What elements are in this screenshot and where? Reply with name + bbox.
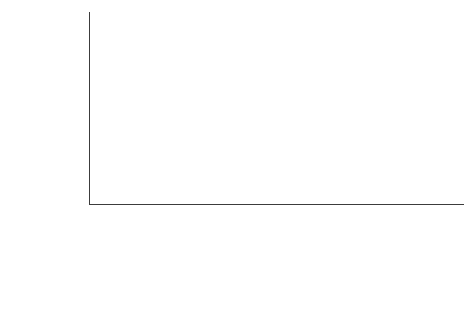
x-axis-line [89,204,464,205]
figure-caption [3,319,14,334]
y-axis-line [89,12,90,205]
figure-9-3-chart [0,0,468,334]
y-axis-title [6,12,22,204]
